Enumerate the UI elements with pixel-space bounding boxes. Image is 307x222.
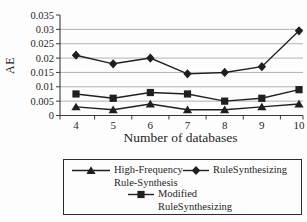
- square-marker-icon: [295, 86, 302, 93]
- diamond-marker-icon: [220, 68, 228, 77]
- y-tick-label: 0.015: [30, 67, 54, 78]
- diamond-marker-icon: [192, 166, 200, 175]
- series-diamond: [72, 26, 303, 78]
- y-axis-title: AE: [3, 53, 18, 79]
- square-marker-icon: [72, 90, 79, 97]
- y-tick-label: 0.005: [30, 96, 54, 107]
- y-tick-label: 0.025: [30, 38, 54, 49]
- legend-item: RuleSynthesizing: [183, 164, 287, 177]
- square-marker-icon: [184, 90, 191, 97]
- diamond-marker-icon: [183, 69, 191, 78]
- y-tick-label: 0.01: [36, 81, 54, 92]
- series-triangle: [71, 100, 303, 113]
- y-tick-label: 0.02: [36, 53, 54, 64]
- x-tick-label: 5: [110, 119, 116, 130]
- y-tick-label: 0: [49, 110, 54, 121]
- square-marker-icon: [221, 98, 228, 105]
- y-tick-label: 0.035: [30, 10, 54, 21]
- square-marker-icon: [110, 95, 117, 102]
- diamond-marker-icon: [146, 53, 154, 62]
- legend-item: ModifiedRuleSynthesizing: [128, 188, 232, 213]
- legend-label: ModifiedRuleSynthesizing: [158, 188, 232, 213]
- x-tick-label: 10: [294, 119, 306, 130]
- x-axis-title: Number of databases: [58, 130, 303, 146]
- square-marker-icon: [147, 89, 154, 96]
- x-tick-label: 9: [259, 119, 265, 130]
- diamond-marker-icon: [183, 165, 209, 176]
- series-line: [76, 31, 299, 74]
- diamond-marker-icon: [109, 59, 117, 68]
- square-marker-icon: [137, 191, 144, 198]
- series-square: [72, 86, 302, 105]
- y-tick-label: 0.03: [36, 24, 54, 35]
- legend-label: RuleSynthesizing: [213, 164, 287, 177]
- x-tick-label: 6: [148, 119, 154, 130]
- legend-item: High-Frequency-Rule-Synthesis: [72, 164, 186, 189]
- legend-box: High-Frequency-Rule-SynthesisRuleSynthes…: [63, 159, 302, 215]
- x-tick-label: 8: [222, 119, 228, 130]
- chart-figure: 00.0050.010.0150.020.0250.030.0354567891…: [0, 0, 307, 222]
- line-chart: 00.0050.010.0150.020.0250.030.0354567891…: [0, 0, 307, 130]
- legend-label: High-Frequency-Rule-Synthesis: [114, 164, 186, 189]
- square-marker-icon: [258, 95, 265, 102]
- x-tick-label: 4: [73, 119, 79, 130]
- x-tick-label: 7: [185, 119, 191, 130]
- square-marker-icon: [128, 189, 154, 200]
- triangle-marker-icon: [72, 165, 110, 176]
